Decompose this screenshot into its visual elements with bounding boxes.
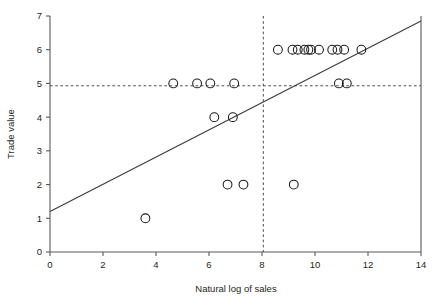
x-tick-label: 12 bbox=[363, 259, 374, 270]
x-axis-label: Natural log of sales bbox=[195, 283, 277, 294]
data-point bbox=[230, 79, 239, 88]
data-point bbox=[193, 79, 202, 88]
x-tick-label: 2 bbox=[100, 259, 105, 270]
y-tick-label: 6 bbox=[37, 44, 42, 55]
data-point bbox=[289, 180, 298, 189]
x-tick-label: 14 bbox=[416, 259, 427, 270]
y-tick-label: 5 bbox=[37, 78, 42, 89]
y-axis-label: Trade value bbox=[5, 109, 16, 159]
x-tick-label: 4 bbox=[153, 259, 158, 270]
x-tick-group: 02468101214 bbox=[47, 252, 426, 270]
scatter-chart: 01234567 02468101214 Natural log of sale… bbox=[0, 0, 441, 301]
y-tick-group: 01234567 bbox=[37, 10, 50, 257]
data-point bbox=[206, 79, 215, 88]
y-tick-label: 7 bbox=[37, 10, 42, 21]
y-tick-label: 3 bbox=[37, 145, 42, 156]
data-point bbox=[169, 79, 178, 88]
data-point bbox=[141, 214, 150, 223]
y-tick-label: 4 bbox=[37, 112, 42, 123]
y-tick-label: 0 bbox=[37, 246, 42, 257]
data-point bbox=[328, 45, 337, 54]
x-tick-label: 6 bbox=[206, 259, 211, 270]
y-tick-label: 1 bbox=[37, 213, 42, 224]
data-point bbox=[288, 45, 297, 54]
x-tick-label: 10 bbox=[310, 259, 321, 270]
x-tick-label: 0 bbox=[47, 259, 52, 270]
x-tick-label: 8 bbox=[259, 259, 264, 270]
data-point bbox=[210, 113, 219, 122]
y-tick-label: 2 bbox=[37, 179, 42, 190]
data-point bbox=[340, 45, 349, 54]
plot-area: 01234567 02468101214 Natural log of sale… bbox=[0, 0, 441, 301]
data-point bbox=[223, 180, 232, 189]
data-point bbox=[239, 180, 248, 189]
data-points-group bbox=[141, 45, 366, 222]
data-point bbox=[274, 45, 283, 54]
